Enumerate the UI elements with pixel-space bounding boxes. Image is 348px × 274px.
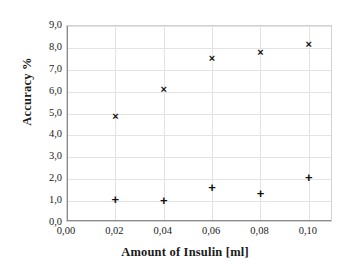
y-tick-label: 1,0 — [22, 195, 62, 206]
x-axis-line — [67, 220, 331, 221]
y-tick-label: 5,0 — [22, 107, 62, 118]
y-tick-label: 6,0 — [22, 85, 62, 96]
y-tick-label: 7,0 — [22, 64, 62, 75]
y-tick-label: 2,0 — [22, 173, 62, 184]
data-point-marker: + — [112, 192, 120, 205]
y-tick-label: 3,0 — [22, 151, 62, 162]
data-point-marker: + — [160, 194, 168, 207]
horizontal-gridline — [67, 135, 331, 136]
horizontal-gridline — [67, 201, 331, 202]
x-tick-label: 0,10 — [299, 226, 317, 237]
horizontal-gridline — [67, 26, 331, 27]
horizontal-gridline — [67, 157, 331, 158]
x-tick-label: 0,06 — [202, 226, 220, 237]
data-point-marker: × — [161, 84, 167, 95]
data-point-marker: + — [208, 180, 216, 193]
y-tick-label: 9,0 — [22, 20, 62, 31]
x-tick-label: 0,08 — [250, 226, 268, 237]
data-point-marker: + — [305, 171, 313, 184]
vertical-gridline — [309, 26, 310, 221]
x-tick-label: 0,02 — [105, 226, 123, 237]
horizontal-gridline — [67, 114, 331, 115]
horizontal-gridline — [67, 179, 331, 180]
data-point-marker: × — [112, 110, 118, 121]
x-tick-label: 0,04 — [154, 226, 172, 237]
horizontal-gridline — [67, 92, 331, 93]
x-axis-title: Amount of Insulin [ml] — [40, 245, 330, 260]
horizontal-gridline — [67, 48, 331, 49]
y-axis-tick-labels: 0,01,02,03,04,05,06,07,08,09,0 — [22, 25, 62, 222]
scatter-chart-figure: Accuracy % 0,01,02,03,04,05,06,07,08,09,… — [0, 0, 348, 274]
y-tick-label: 8,0 — [22, 42, 62, 53]
horizontal-gridline — [67, 70, 331, 71]
data-point-marker: × — [306, 38, 312, 49]
y-tick-label: 4,0 — [22, 129, 62, 140]
data-point-marker: × — [209, 52, 215, 63]
plot-area: ×××××+++++ — [66, 25, 332, 222]
data-point-marker: + — [257, 187, 265, 200]
data-point-marker: × — [257, 47, 263, 58]
x-tick-label: 0,00 — [57, 226, 75, 237]
y-axis-line — [67, 26, 68, 221]
x-axis-tick-labels: 0,000,020,040,060,080,10 — [66, 226, 332, 242]
